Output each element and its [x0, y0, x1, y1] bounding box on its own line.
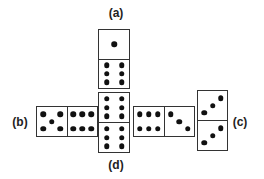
pip-dot — [155, 126, 161, 132]
pip-dot — [146, 126, 152, 132]
domino-a — [98, 29, 130, 89]
domino-half-5-pips — [37, 107, 67, 136]
domino-half-6-pips — [134, 107, 164, 136]
domino-half-1-pips — [99, 30, 129, 59]
domino-puzzle-figure: (a) (b) (c) (d) — [0, 0, 264, 179]
pip-dot — [71, 112, 77, 118]
pip-dot — [88, 112, 94, 118]
domino-half-3-pips — [164, 107, 195, 136]
domino-half-6-pips — [99, 93, 129, 122]
pip-dot — [111, 42, 117, 48]
pip-dot — [104, 135, 110, 141]
pip-dot — [104, 126, 110, 132]
pip-dot — [137, 112, 143, 118]
domino-right-middle — [133, 106, 195, 137]
pip-dot — [71, 126, 77, 132]
pip-dot — [210, 133, 216, 139]
label-a: (a) — [109, 6, 124, 20]
label-d: (d) — [108, 158, 123, 172]
pip-dot — [41, 112, 47, 118]
pip-dot — [80, 112, 86, 118]
domino-half-6-pips — [99, 122, 129, 152]
pip-dot — [104, 143, 110, 149]
pip-dot — [185, 126, 191, 132]
pip-dot — [80, 126, 86, 132]
domino-half-3-pips — [198, 91, 227, 120]
pip-dot — [202, 140, 208, 146]
pip-dot — [57, 126, 63, 132]
pip-dot — [41, 126, 47, 132]
pip-dot — [49, 119, 55, 125]
pip-dot — [146, 112, 152, 118]
pip-dot — [218, 126, 224, 132]
pip-dot — [202, 110, 208, 116]
domino-half-6-pips — [67, 107, 98, 136]
label-c: (c) — [233, 115, 248, 129]
pip-dot — [104, 96, 110, 102]
pip-dot — [57, 112, 63, 118]
pip-dot — [119, 113, 125, 119]
domino-half-6-pips — [99, 59, 129, 89]
pip-dot — [119, 96, 125, 102]
pip-dot — [168, 112, 174, 118]
pip-dot — [137, 126, 143, 132]
pip-dot — [88, 126, 94, 132]
pip-dot — [104, 80, 110, 86]
pip-dot — [119, 105, 125, 111]
pip-dot — [119, 62, 125, 68]
pip-dot — [104, 71, 110, 77]
pip-dot — [119, 80, 125, 86]
pip-dot — [119, 126, 125, 132]
domino-c — [197, 90, 228, 151]
pip-dot — [177, 119, 183, 125]
pip-dot — [119, 71, 125, 77]
pip-dot — [119, 135, 125, 141]
pip-dot — [104, 113, 110, 119]
pip-dot — [119, 143, 125, 149]
pip-dot — [210, 103, 216, 109]
pip-dot — [104, 62, 110, 68]
domino-d — [98, 92, 130, 153]
domino-b — [36, 106, 98, 137]
label-b: (b) — [12, 115, 27, 129]
domino-half-3-pips — [198, 120, 227, 150]
pip-dot — [218, 96, 224, 102]
pip-dot — [155, 112, 161, 118]
pip-dot — [104, 105, 110, 111]
